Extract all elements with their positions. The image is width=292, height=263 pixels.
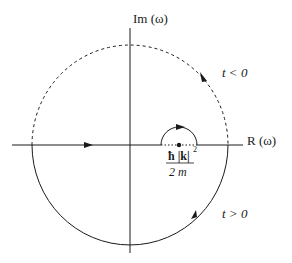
real-axis-label: R (ω)	[247, 133, 276, 148]
imaginary-axis-label: Im (ω)	[133, 11, 168, 26]
lower-region-label: t > 0	[222, 206, 248, 221]
contour-diagram: Im (ω) R (ω) t < 0 t > 0 ħ |k| 2 2 m	[0, 0, 292, 263]
pole-indent-arc	[161, 127, 197, 145]
real-axis-arrow-icon	[84, 142, 93, 148]
pole-label-numerator: ħ |k|	[168, 149, 190, 163]
pole-dot	[177, 143, 181, 147]
upper-region-label: t < 0	[222, 65, 248, 80]
pole-label-exponent: 2	[193, 145, 197, 154]
upper-contour-arrow-icon	[200, 72, 207, 82]
pole-label-denominator: 2 m	[169, 165, 187, 179]
lower-contour-arrow-icon	[191, 210, 197, 219]
indent-arc-arrow-icon	[176, 124, 185, 130]
